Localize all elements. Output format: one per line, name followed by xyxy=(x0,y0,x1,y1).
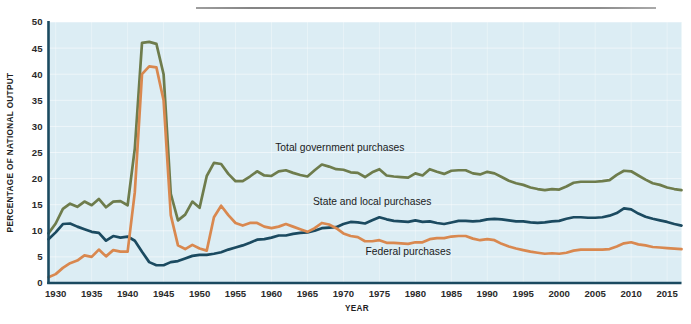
x-tick-label: 2015 xyxy=(656,288,678,299)
x-axis-tick-labels: 1930193519401945195019551960196519701975… xyxy=(45,288,678,299)
x-tick-label: 2010 xyxy=(620,288,641,299)
y-axis-tick-labels: 05101520253035404550 xyxy=(32,16,43,288)
x-tick-label: 1955 xyxy=(225,288,247,299)
y-tick-label: 10 xyxy=(32,225,43,236)
x-tick-label: 1950 xyxy=(189,288,210,299)
x-tick-label: 1965 xyxy=(297,288,319,299)
y-tick-label: 30 xyxy=(32,121,43,132)
y-tick-label: 5 xyxy=(37,251,43,262)
x-tick-label: 1970 xyxy=(333,288,354,299)
series-label-1: State and local purchases xyxy=(313,196,432,207)
x-tick-label: 1995 xyxy=(513,288,535,299)
x-axis-title: YEAR xyxy=(345,304,369,313)
y-tick-label: 0 xyxy=(37,277,42,288)
x-tick-label: 2000 xyxy=(549,288,570,299)
figure-container: 05101520253035404550 1930193519401945195… xyxy=(0,0,691,324)
series-label-0: Total government purchases xyxy=(275,142,404,153)
x-tick-label: 1980 xyxy=(405,288,426,299)
y-tick-label: 50 xyxy=(32,16,43,27)
y-tick-label: 40 xyxy=(32,69,43,80)
y-tick-label: 20 xyxy=(32,173,43,184)
x-tick-label: 1940 xyxy=(117,288,138,299)
y-tick-label: 15 xyxy=(32,199,43,210)
y-tick-label: 25 xyxy=(32,147,43,158)
series-label-2: Federal purchases xyxy=(366,246,451,257)
y-tick-label: 45 xyxy=(32,43,43,54)
chart-area: 05101520253035404550 1930193519401945195… xyxy=(0,0,691,324)
x-tick-label: 1975 xyxy=(369,288,391,299)
x-tick-label: 1990 xyxy=(477,288,498,299)
x-tick-label: 1945 xyxy=(153,288,175,299)
x-tick-label: 1985 xyxy=(441,288,463,299)
x-tick-label: 1930 xyxy=(45,288,66,299)
x-tick-label: 1960 xyxy=(261,288,282,299)
x-tick-label: 2005 xyxy=(585,288,607,299)
y-axis-title: PERCENTAGE OF NATIONAL OUTPUT xyxy=(6,73,15,233)
y-tick-label: 35 xyxy=(32,95,43,106)
line-chart: 05101520253035404550 1930193519401945195… xyxy=(0,0,691,324)
x-tick-label: 1935 xyxy=(81,288,103,299)
